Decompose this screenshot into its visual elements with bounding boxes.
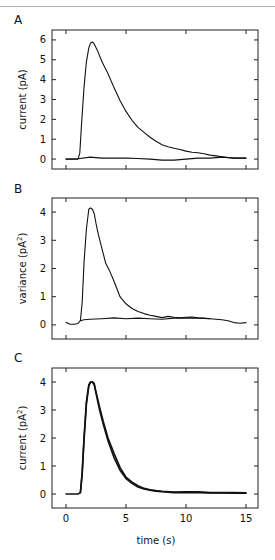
x-axis-label: time (s) bbox=[137, 535, 176, 546]
y-tick-label: 3 bbox=[40, 94, 46, 105]
x-tick-label: 15 bbox=[240, 513, 253, 524]
figure: A0123456current (pA) B01234variance (pA2… bbox=[0, 0, 275, 560]
y-tick-label: 1 bbox=[40, 134, 46, 145]
x-tick-label: 10 bbox=[180, 513, 193, 524]
panel-letter: C bbox=[14, 351, 22, 365]
panel-a: A0123456current (pA) bbox=[14, 13, 258, 169]
y-axis-label: variance (pA2) bbox=[16, 233, 28, 305]
y-tick-label: 5 bbox=[40, 54, 46, 65]
y-tick-label: 1 bbox=[40, 291, 46, 302]
y-tick-label: 3 bbox=[40, 405, 46, 416]
series-line-variance bbox=[66, 208, 246, 324]
y-axis-label: current (pA2) bbox=[16, 406, 28, 471]
panel-letter: B bbox=[14, 182, 22, 196]
y-axis-label-text: current (pA bbox=[17, 414, 28, 471]
y-tick-label: 4 bbox=[40, 74, 46, 85]
y-axis-label-text: variance (pA bbox=[17, 241, 28, 304]
y-tick-label: 4 bbox=[40, 377, 46, 388]
y-tick-label: 1 bbox=[40, 461, 46, 472]
x-tick-label: 5 bbox=[123, 513, 129, 524]
y-axis-label-close: ) bbox=[17, 233, 28, 237]
y-tick-label: 4 bbox=[40, 207, 46, 218]
axes-frame bbox=[52, 198, 258, 339]
series-line-variance-overlay- bbox=[80, 382, 246, 493]
y-tick-label: 0 bbox=[40, 319, 46, 330]
series-line-scaled-current bbox=[66, 382, 246, 494]
x-tick-label: 0 bbox=[63, 513, 69, 524]
y-tick-label: 0 bbox=[40, 489, 46, 500]
y-tick-label: 2 bbox=[40, 433, 46, 444]
y-tick-label: 2 bbox=[40, 114, 46, 125]
y-tick-label: 0 bbox=[40, 154, 46, 165]
y-tick-label: 2 bbox=[40, 263, 46, 274]
panel-b: B01234variance (pA2) bbox=[14, 182, 258, 339]
panel-c: C05101501234current (pA2)time (s) bbox=[14, 351, 258, 546]
y-axis-label: current (pA) bbox=[17, 69, 28, 129]
panel-letter: A bbox=[14, 13, 23, 27]
series-line-baseline-current bbox=[66, 157, 246, 160]
axes-frame bbox=[52, 368, 258, 508]
y-tick-label: 6 bbox=[40, 34, 46, 45]
series-line-baseline-variance bbox=[80, 318, 210, 321]
y-axis-label-close: ) bbox=[17, 406, 28, 410]
y-tick-label: 3 bbox=[40, 235, 46, 246]
series-line-mean-current bbox=[66, 42, 246, 159]
